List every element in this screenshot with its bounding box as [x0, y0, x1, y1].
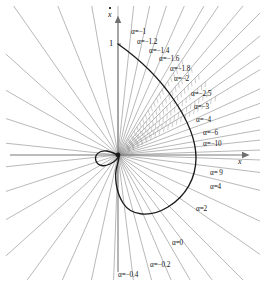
hatch-tick	[146, 121, 147, 126]
isocline-ray	[14, 6, 118, 155]
hatch-tick	[159, 94, 160, 99]
isocline-ray	[118, 89, 260, 155]
hatch-tick	[157, 98, 158, 103]
hatch-tick	[149, 117, 150, 122]
phase-plane-figure: x x 1 α=−1α=−1.2α=−1.4α=−1.6α=−1.8α=−2α=…	[0, 0, 266, 286]
isocline-ray	[27, 155, 118, 280]
x-axis-label: x	[238, 157, 242, 166]
isocline-ray	[6, 155, 118, 191]
alpha-label-neg6: α=−6	[203, 130, 218, 137]
alpha-label-neg3: α=−3	[194, 104, 209, 111]
hatch-tick	[191, 68, 192, 73]
isocline-ray	[118, 155, 243, 280]
alpha-label-9: α= 9	[210, 170, 223, 177]
hatch-tick	[172, 91, 173, 96]
alpha-label-0: α=0	[172, 240, 183, 247]
origin-point	[116, 153, 121, 158]
isocline-ray	[62, 155, 118, 280]
y-axis-tick-label-1: 1	[109, 38, 113, 48]
alpha-label-neg4: α=−4	[196, 117, 211, 124]
isocline-ray	[118, 155, 151, 280]
hatch-tick	[171, 77, 172, 82]
alpha-label-neg1p8: α=−1.8	[170, 66, 190, 73]
y-axis-label-text: x	[108, 10, 112, 19]
hatch-tick	[178, 83, 179, 88]
isocline-ray	[6, 119, 118, 155]
hatch-tick	[168, 81, 169, 86]
alpha-label-neg1: α=−1	[131, 29, 146, 36]
alpha-label-neg1p6: α=−1.6	[159, 56, 179, 63]
hatch-tick	[159, 106, 160, 111]
hatch-tick	[162, 102, 163, 107]
hatch-tick	[175, 87, 176, 92]
alpha-label-neg1p2: α=−1.2	[137, 39, 157, 46]
alpha-label-4: α=4	[210, 184, 221, 191]
alpha-label-neg2: α=−2	[174, 76, 189, 83]
hatch-tick	[162, 90, 163, 95]
alpha-label-neg10: α=−10	[203, 141, 222, 148]
hatch-tick	[156, 110, 157, 115]
alpha-label-neg2p5: α=−2.5	[191, 91, 211, 98]
isocline-ray	[58, 6, 118, 155]
y-axis-label: x	[108, 10, 112, 19]
hatch-tick	[140, 123, 141, 128]
hatch-tick	[145, 114, 146, 119]
isocline-ray	[118, 117, 260, 155]
hatch-tick	[166, 98, 167, 103]
alpha-label-neg0p4: α=−0.4	[118, 272, 138, 279]
hatch-tick	[143, 119, 144, 124]
isocline-ray	[92, 6, 118, 155]
hatch-tick	[169, 94, 170, 99]
isocline-ray	[6, 54, 118, 155]
hatch-tick	[151, 106, 152, 111]
alpha-label-neg0p2: α=−0.2	[150, 262, 170, 269]
hatch-tick	[148, 110, 149, 115]
plot-svg	[0, 0, 266, 286]
hatch-tick	[153, 114, 154, 119]
hatch-tick	[154, 102, 155, 107]
alpha-label-2: α=2	[196, 206, 207, 213]
isocline-ray	[6, 155, 118, 256]
